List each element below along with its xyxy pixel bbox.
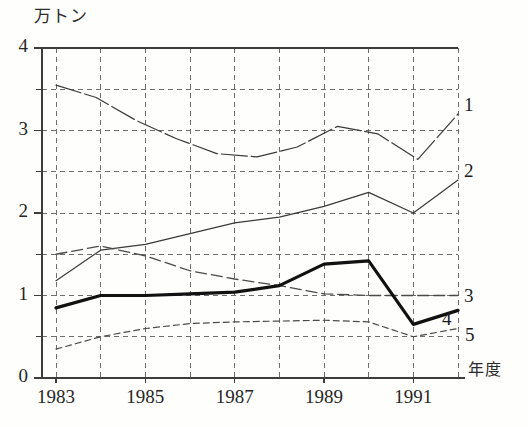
series-line-1 — [56, 85, 458, 159]
axis-ticks — [34, 48, 413, 383]
series-label-5: 5 — [465, 324, 475, 346]
x-tick-label: 1985 — [110, 386, 180, 408]
series-label-3: 3 — [464, 285, 474, 307]
x-tick-label: 1987 — [200, 386, 270, 408]
y-tick-label: 2 — [2, 200, 28, 222]
x-tick-label: 1989 — [289, 386, 359, 408]
x-tick-label: 1991 — [378, 386, 448, 408]
series-label-4: 4 — [442, 308, 452, 330]
series-line-5 — [56, 320, 458, 349]
series-line-4 — [56, 261, 458, 325]
x-tick-label: 1983 — [21, 386, 91, 408]
plot-area — [0, 0, 528, 427]
y-tick-label: 1 — [2, 283, 28, 305]
chart-figure: 万トン 年度 01234 19831985198719891991 12345 — [0, 0, 528, 427]
data-series — [56, 85, 458, 349]
y-tick-label: 0 — [2, 365, 28, 387]
y-tick-label: 4 — [2, 35, 28, 57]
y-tick-label: 3 — [2, 118, 28, 140]
series-line-2 — [56, 180, 458, 281]
series-label-1: 1 — [464, 94, 474, 116]
series-label-2: 2 — [464, 160, 474, 182]
gridlines — [42, 48, 458, 378]
